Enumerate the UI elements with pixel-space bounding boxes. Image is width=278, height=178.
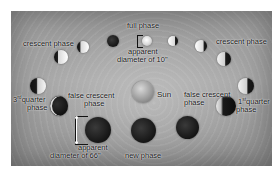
phase-third-quarter — [30, 78, 46, 94]
phase-crescent-left-2 — [54, 50, 68, 64]
sun-sphere — [132, 81, 154, 103]
phase-full — [142, 36, 152, 46]
sun-label: Sun — [157, 91, 171, 99]
apparent-diameter-large-line — [76, 117, 77, 143]
full-phase-label: full phase — [127, 22, 159, 30]
new-phase-label: new phase — [125, 152, 161, 160]
phase-large-dark-right — [176, 116, 199, 139]
phase-top-dark — [107, 35, 119, 47]
phase-crescent-right — [217, 52, 231, 66]
crescent-phase-left-label: crescent phase — [23, 40, 74, 48]
false-crescent-left-label-line2: phase — [84, 100, 104, 108]
third-quarter-label-line2: phase — [27, 104, 47, 112]
false-crescent-right-label-line2: phase — [184, 99, 204, 107]
phase-false-crescent-left — [50, 96, 68, 116]
bracket-dot-top — [75, 116, 78, 119]
phase-first-quarter — [238, 78, 254, 94]
apparent-large-label-line2: diameter of 66" — [50, 152, 101, 160]
phase-false-crescent-right — [216, 96, 236, 116]
first-quarter-label-line2: phase — [236, 106, 256, 114]
phase-gibbous-right-1 — [168, 36, 178, 46]
phase-large-dark-left — [85, 117, 111, 143]
phase-gibbous-right-2 — [195, 40, 207, 52]
phase-crescent-left-1 — [77, 41, 89, 53]
crescent-phase-right-label: crescent phase — [216, 38, 267, 46]
phase-new — [131, 118, 156, 143]
apparent-small-label-line2: diameter of 10" — [117, 56, 168, 64]
